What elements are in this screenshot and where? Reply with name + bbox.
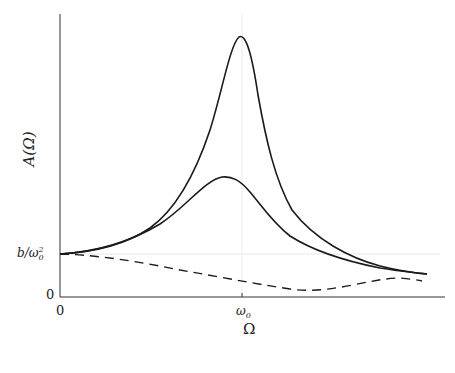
y-axis-label: A(Ω)	[20, 132, 38, 167]
x-axis-label: Ω	[243, 320, 255, 338]
curve-light-damping	[60, 37, 427, 274]
resonance-chart	[0, 0, 455, 373]
x-tick-label-omega0: ω0	[236, 304, 251, 320]
y-tick-label-zero: 0	[46, 287, 54, 302]
x-tick-text: ω	[236, 304, 246, 318]
x-tick-label-zero: 0	[56, 303, 64, 318]
y-tick-text: b/ω	[17, 246, 39, 260]
y-tick-sub: 0	[39, 253, 44, 262]
y-tick-sup: 2	[39, 245, 44, 254]
curve-heavy-damping	[60, 254, 422, 290]
y-tick-label-b-omega: b/ω02	[17, 245, 44, 262]
curve-moderate-damping	[60, 177, 427, 274]
